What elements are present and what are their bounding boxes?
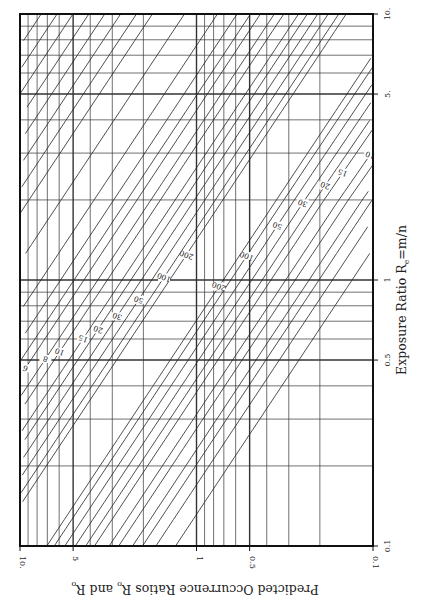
exposure-tick-label: 5.	[383, 90, 392, 98]
curve-50	[22, 14, 328, 475]
curve-label: 10	[364, 149, 376, 161]
curve-200	[47, 58, 371, 546]
curve-extra	[24, 14, 121, 160]
occurrence-tick-label: 10.	[18, 556, 27, 569]
curve-label: 15	[337, 167, 349, 179]
curve-5	[142, 200, 371, 546]
exposure-tick-label: 10.	[383, 8, 392, 21]
occurrence-ratio-axis-title: Predicted Occurrence Ratios Ro and Ro	[71, 580, 318, 597]
exposure-ratio-ticks: 0.10.515.10.	[373, 8, 392, 553]
occurrence-tick-label: 1	[195, 556, 204, 561]
exposure-tick-label: 0.1	[383, 540, 392, 553]
curve-label: 20	[92, 323, 104, 335]
curve-label: 15	[77, 333, 89, 345]
occurrence-ratio-ticks: 10.510.50.1	[18, 546, 380, 569]
curve-30	[24, 14, 318, 457]
curve-4	[156, 227, 368, 546]
exposure-tick-label: 0.5	[383, 354, 392, 367]
curve-label: 30	[296, 197, 308, 209]
curve-label: 100	[238, 249, 255, 262]
curve-5	[21, 14, 250, 360]
curve-6	[133, 191, 369, 546]
curve-extra	[22, 14, 57, 67]
exposure-ratio-axis-title: Exposure Ratio Re=m/n	[394, 225, 411, 375]
curve-30	[75, 103, 371, 546]
curve-label: 10	[53, 346, 65, 358]
curve-label: 100	[156, 271, 173, 284]
curve-3	[23, 14, 217, 307]
chart: 6810152030501002001015203050100200 0.10.…	[0, 0, 426, 602]
curve-extra	[24, 14, 42, 41]
exposure-tick-label: 1	[383, 277, 392, 282]
occurrence-tick-label: 0.5	[248, 556, 257, 569]
curve-6	[25, 14, 260, 369]
curve-10	[25, 14, 284, 404]
occurrence-tick-label: 5	[71, 556, 80, 561]
curve-extra	[27, 14, 89, 107]
curve-label: 200	[211, 280, 228, 293]
curve-15	[94, 129, 372, 546]
curve-label: 50	[132, 294, 144, 306]
occurrence-tick-label: 0.1	[371, 556, 380, 569]
curve-8	[119, 165, 373, 546]
curve-label: 50	[271, 220, 283, 232]
grid-lines	[20, 14, 373, 546]
curve-20	[25, 14, 307, 440]
curve-10	[109, 156, 369, 546]
curve-label: 200	[178, 248, 195, 261]
curve-extra	[20, 14, 152, 214]
curve-label: 20	[319, 179, 331, 191]
curve-50	[65, 85, 372, 546]
curve-label: 30	[111, 310, 123, 322]
